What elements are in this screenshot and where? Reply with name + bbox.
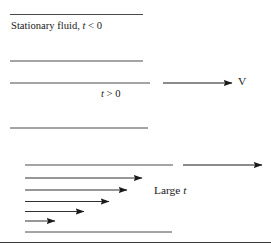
diagram-canvas bbox=[0, 0, 271, 246]
label-large-t: Large t bbox=[154, 185, 186, 196]
label-velocity-V: V bbox=[238, 76, 246, 87]
label-stationary-fluid: Stationary fluid, t < 0 bbox=[11, 21, 102, 32]
panel-large-t bbox=[25, 165, 262, 232]
label-large-t-variable: t bbox=[183, 184, 186, 196]
label-t-relation: > 0 bbox=[104, 88, 121, 99]
label-stationary-fluid-text: Stationary fluid, bbox=[11, 20, 83, 31]
panel-t-greater-than-zero bbox=[10, 61, 232, 128]
figure-container bbox=[0, 0, 271, 246]
label-stationary-fluid-relation: < 0 bbox=[85, 20, 102, 31]
label-t-greater-than-zero: t > 0 bbox=[101, 89, 121, 100]
label-large-t-text: Large bbox=[154, 184, 183, 196]
